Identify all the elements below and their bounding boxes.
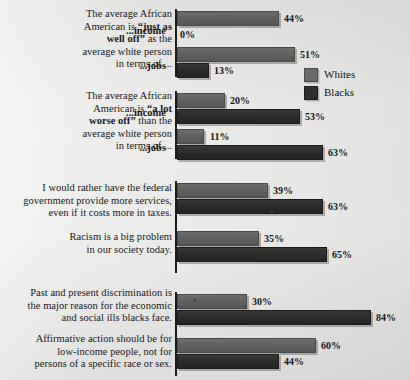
subcategory-label-jobs-1: ...jobs bbox=[0, 60, 172, 71]
question-6-line-3: persons of a specific race or sex. bbox=[0, 358, 172, 371]
question-5-line-1: Past and present discrimination is bbox=[0, 287, 172, 300]
question-3-line-3: even if it costs more in taxes. bbox=[0, 207, 172, 220]
subcategory-label-income-1: ...income bbox=[0, 25, 172, 36]
bar-g2-income-whites bbox=[177, 93, 225, 108]
legend-item-blacks[interactable]: Blacks bbox=[304, 85, 355, 100]
question-2-line-4: average white person bbox=[0, 128, 172, 141]
bar-g6-blacks bbox=[177, 354, 279, 369]
question-label-3: I would rather have the federal governme… bbox=[0, 182, 172, 220]
question-4-line-1: Racism is a big problem bbox=[0, 231, 172, 244]
legend-item-whites[interactable]: Whites bbox=[304, 67, 355, 82]
subcategory-label-income-2: ...income bbox=[0, 107, 172, 118]
bar-g5-blacks bbox=[177, 310, 371, 325]
legend: Whites Blacks bbox=[304, 67, 355, 103]
legend-label-whites: Whites bbox=[324, 67, 355, 82]
question-3-line-1: I would rather have the federal bbox=[0, 182, 172, 195]
question-label-5: Past and present discrimination is the m… bbox=[0, 287, 172, 325]
bar-value-g1-income-blacks: 0% bbox=[180, 29, 195, 40]
bar-value-g2-jobs-whites: 11% bbox=[210, 131, 229, 142]
question-label-4: Racism is a big problem in our society t… bbox=[0, 231, 172, 256]
bar-value-g1-income-whites: 44% bbox=[284, 13, 304, 24]
bar-g1-jobs-whites bbox=[177, 47, 295, 62]
subcategory-label-jobs-2: ...jobs bbox=[0, 142, 172, 153]
bar-value-g2-income-blacks: 53% bbox=[305, 111, 325, 122]
scan-speck-1 bbox=[271, 211, 273, 213]
question-2-line-1: The average African bbox=[0, 90, 172, 103]
bar-value-g1-jobs-blacks: 13% bbox=[214, 65, 234, 76]
question-6-line-2: low-income people, not for bbox=[0, 346, 172, 359]
bar-value-g1-jobs-whites: 51% bbox=[300, 49, 320, 60]
bar-value-g2-jobs-blacks: 63% bbox=[328, 147, 348, 158]
question-5-line-2: the major reason for the economic bbox=[0, 300, 172, 313]
question-1-line-1: The average African bbox=[0, 8, 172, 21]
question-5-line-3: and social ills blacks face. bbox=[0, 312, 172, 325]
bar-value-g5-whites: 30% bbox=[252, 296, 272, 307]
bar-value-g3-whites: 39% bbox=[273, 185, 293, 196]
bar-g4-blacks bbox=[177, 247, 327, 262]
legend-label-blacks: Blacks bbox=[324, 85, 354, 100]
bar-value-g3-blacks: 63% bbox=[328, 201, 348, 212]
question-4-line-2: in our society today. bbox=[0, 244, 172, 257]
bar-g3-whites bbox=[177, 183, 268, 198]
legend-swatch-whites-icon bbox=[304, 68, 318, 82]
question-3-line-2: government provide more services, bbox=[0, 195, 172, 208]
question-label-6: Affirmative action should be for low-inc… bbox=[0, 333, 172, 371]
bar-g2-jobs-blacks bbox=[177, 145, 323, 160]
bar-g5-whites bbox=[177, 294, 247, 309]
bar-g1-income-whites bbox=[177, 11, 279, 26]
bar-g3-blacks bbox=[177, 199, 323, 214]
bar-value-g6-whites: 60% bbox=[321, 340, 341, 351]
bar-value-g4-whites: 35% bbox=[264, 233, 284, 244]
bar-value-g6-blacks: 44% bbox=[284, 356, 304, 367]
question-6-line-1: Affirmative action should be for bbox=[0, 333, 172, 346]
question-1-line-4: average white person bbox=[0, 46, 172, 59]
bar-g4-whites bbox=[177, 231, 259, 246]
bar-value-g4-blacks: 65% bbox=[332, 249, 352, 260]
bar-g2-income-blacks bbox=[177, 109, 300, 124]
scan-speck-2 bbox=[193, 299, 196, 302]
horizontal-bar-chart: The average African American is “just as… bbox=[0, 0, 410, 380]
bar-g2-jobs-whites bbox=[177, 129, 204, 144]
bar-g6-whites bbox=[177, 338, 316, 353]
legend-swatch-blacks-icon bbox=[304, 86, 318, 100]
bar-value-g2-income-whites: 20% bbox=[230, 95, 250, 106]
bar-g1-jobs-blacks bbox=[177, 63, 209, 78]
bar-value-g5-blacks: 84% bbox=[376, 312, 396, 323]
